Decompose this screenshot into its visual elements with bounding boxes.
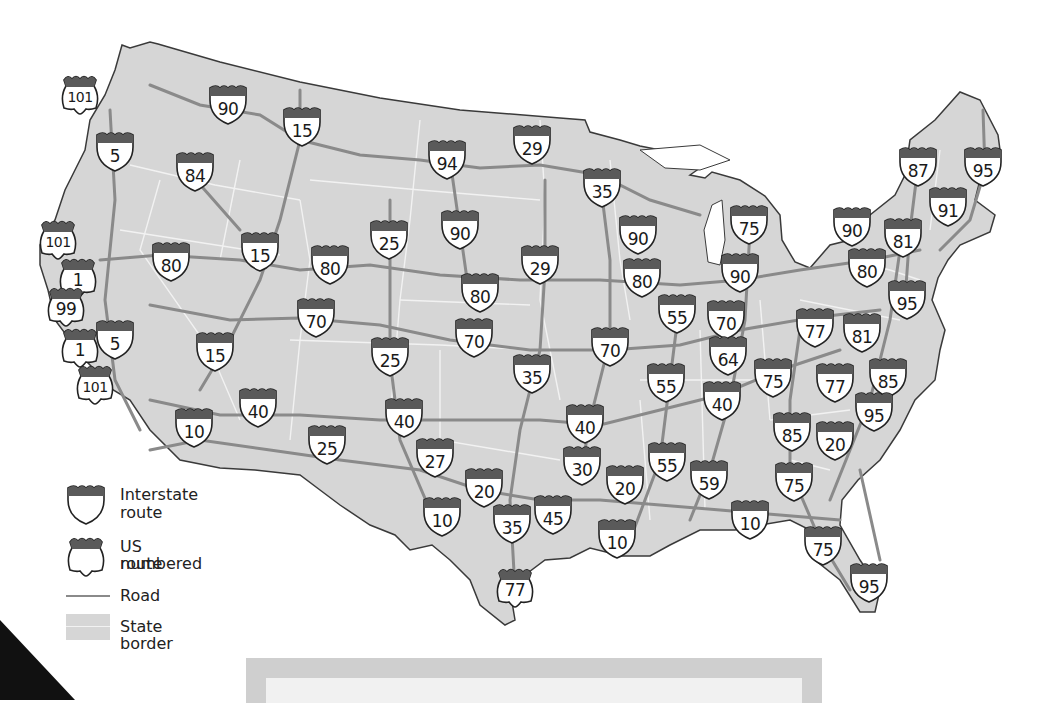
us-route-shield-icon: 1 (60, 327, 100, 369)
interstate-shield-icon: 90 (720, 252, 760, 294)
route-number: 55 (657, 308, 697, 328)
route-number: 90 (720, 267, 760, 287)
interstate-shield-icon: 20 (605, 464, 645, 506)
route-number: 1 (60, 340, 100, 360)
interstate-shield-icon: 90 (440, 209, 480, 251)
route-number: 20 (605, 479, 645, 499)
interstate-shield-icon: 40 (702, 380, 742, 422)
interstate-shield-icon: 35 (582, 167, 622, 209)
interstate-shield-icon: 90 (832, 206, 872, 248)
interstate-shield-icon: 30 (562, 445, 602, 487)
interstate-shield-icon: 5 (95, 131, 135, 173)
route-number: 87 (898, 161, 938, 181)
interstate-shield-icon: 10 (730, 499, 770, 541)
interstate-shield-icon: 95 (849, 562, 889, 604)
interstate-shield-icon: 81 (842, 312, 882, 354)
interstate-shield-icon: 5 (95, 319, 135, 361)
road-line-icon (66, 595, 110, 597)
interstate-shield-icon (66, 484, 106, 530)
interstate-shield-icon: 77 (815, 362, 855, 404)
route-number: 90 (832, 221, 872, 241)
interstate-shield-icon: 95 (963, 146, 1003, 188)
route-number: 90 (208, 99, 248, 119)
interstate-shield-icon: 84 (175, 151, 215, 193)
route-number: 91 (928, 201, 968, 221)
legend-label-road: Road (120, 587, 160, 604)
route-number: 15 (195, 346, 235, 366)
interstate-shield-icon: 15 (195, 331, 235, 373)
interstate-shield-icon: 70 (590, 326, 630, 368)
route-number: 55 (647, 456, 687, 476)
interstate-shield-icon: 70 (454, 317, 494, 359)
route-number: 55 (646, 377, 686, 397)
route-number: 45 (533, 509, 573, 529)
interstate-shield-icon: 80 (460, 272, 500, 314)
route-number: 75 (753, 372, 793, 392)
interstate-shield-icon: 35 (492, 503, 532, 545)
interstate-shield-icon: 10 (422, 496, 462, 538)
interstate-shield-icon: 29 (512, 124, 552, 166)
interstate-shield-icon: 77 (795, 307, 835, 349)
interstate-shield-icon: 10 (174, 407, 214, 449)
route-number: 80 (310, 259, 350, 279)
route-number: 75 (774, 476, 814, 496)
dark-corner-decoration (0, 620, 80, 700)
route-number: 84 (175, 166, 215, 186)
route-number: 10 (597, 533, 637, 553)
interstate-shield-icon: 75 (753, 357, 793, 399)
interstate-shield-icon: 85 (772, 411, 812, 453)
route-number: 95 (854, 406, 894, 426)
route-number: 95 (963, 161, 1003, 181)
interstate-shield-icon: 55 (657, 293, 697, 335)
route-number: 35 (582, 182, 622, 202)
interstate-shield-icon: 95 (887, 279, 927, 321)
route-number: 27 (415, 452, 455, 472)
route-number: 77 (495, 580, 535, 600)
us-route-shield-icon (66, 536, 106, 582)
interstate-shield-icon: 80 (622, 257, 662, 299)
interstate-shield-icon: 90 (208, 84, 248, 126)
route-number: 40 (702, 395, 742, 415)
interstate-shield-icon: 75 (803, 525, 843, 567)
route-number: 101 (75, 377, 115, 397)
route-number: 85 (772, 426, 812, 446)
route-number: 80 (151, 256, 191, 276)
us-route-shield-icon: 101 (38, 219, 78, 261)
bottom-frame-inner (266, 678, 802, 703)
route-number: 10 (174, 422, 214, 442)
interstate-shield-icon: 95 (854, 391, 894, 433)
interstate-shield-icon: 25 (370, 336, 410, 378)
interstate-shield-icon: 25 (307, 424, 347, 466)
interstate-shield-icon: 91 (928, 186, 968, 228)
route-number: 64 (708, 350, 748, 370)
interstate-shield-icon: 55 (646, 362, 686, 404)
route-number: 80 (622, 272, 662, 292)
route-number: 29 (512, 139, 552, 159)
us-route-shield-icon: 101 (75, 364, 115, 406)
interstate-shield-icon: 64 (708, 335, 748, 377)
route-number: 81 (883, 232, 923, 252)
route-number: 90 (618, 229, 658, 249)
us-route-shield-icon: 101 (60, 74, 100, 116)
route-number: 35 (492, 518, 532, 538)
legend-label-state-border: State border (120, 618, 173, 652)
interstate-shield-icon: 94 (427, 139, 467, 181)
interstate-shield-icon: 80 (151, 241, 191, 283)
route-number: 101 (60, 87, 100, 107)
route-number: 101 (38, 232, 78, 252)
interstate-shield-icon: 40 (565, 403, 605, 445)
us-route-shield-icon: 99 (46, 286, 86, 328)
interstate-shield-icon: 25 (369, 219, 409, 261)
route-number: 75 (729, 219, 769, 239)
interstate-shield-icon: 70 (296, 297, 336, 339)
interstate-shield-icon: 29 (520, 244, 560, 286)
route-number: 29 (520, 259, 560, 279)
route-number: 15 (240, 246, 280, 266)
us-route-shield-icon: 77 (495, 567, 535, 609)
route-number: 75 (803, 540, 843, 560)
interstate-shield-icon: 35 (512, 353, 552, 395)
route-number: 10 (730, 514, 770, 534)
interstate-shield-icon: 75 (729, 204, 769, 246)
route-number: 77 (795, 322, 835, 342)
route-number: 80 (847, 262, 887, 282)
